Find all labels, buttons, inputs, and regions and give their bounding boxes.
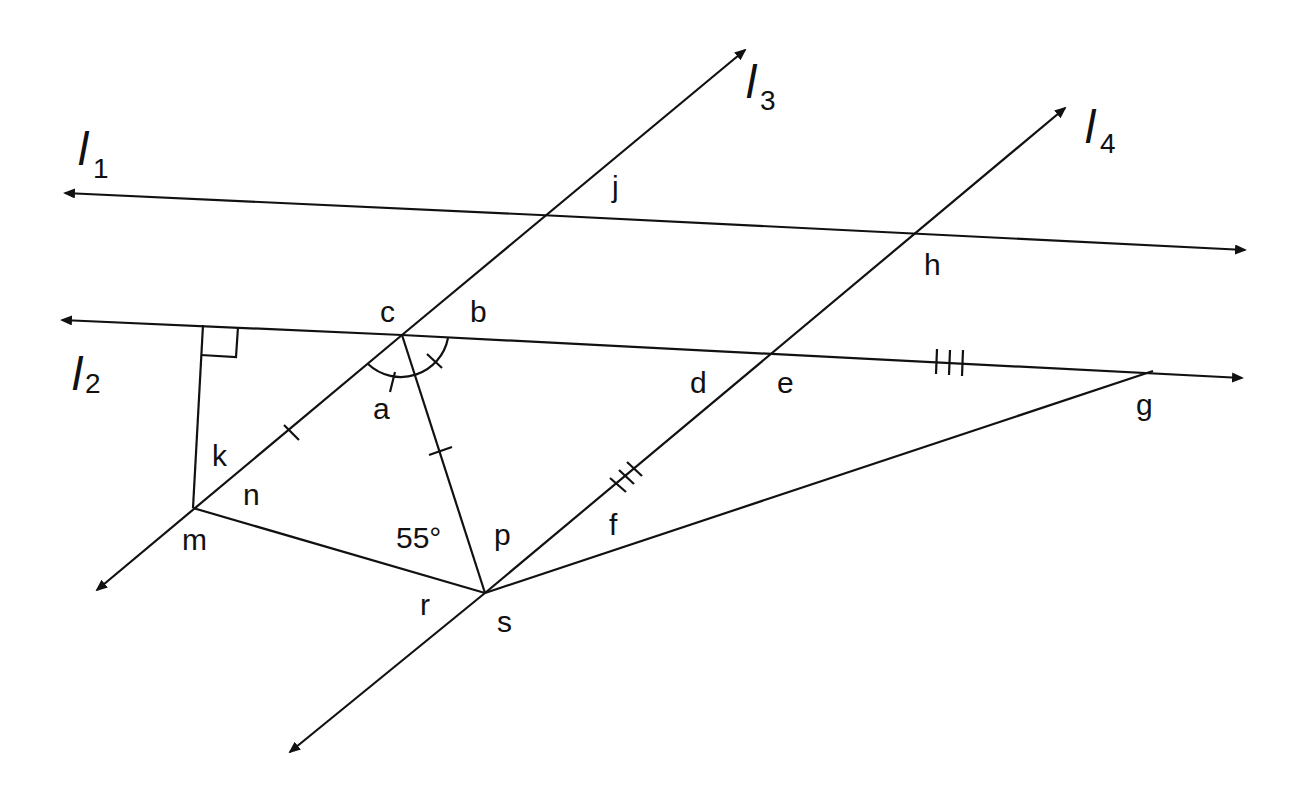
angle-label-g: g [1136, 388, 1153, 421]
angle-label-h: h [924, 248, 941, 281]
line-l1 [540, 215, 1245, 250]
line-label-l3: l 3 [746, 56, 776, 116]
line-label-l4: l 4 [1085, 101, 1116, 159]
line-l2-left [62, 320, 402, 335]
triple-tick-l2-1 [936, 349, 937, 374]
line-label-l1: l 1 [78, 123, 109, 184]
svg-text:2: 2 [85, 368, 101, 399]
triple-tick-l4-2 [619, 470, 634, 484]
angle-label-j: j [611, 170, 619, 203]
segment-s-g [485, 371, 1153, 593]
segment-c-s [402, 335, 485, 593]
angle-label-n: n [243, 478, 260, 511]
svg-text:3: 3 [760, 85, 776, 116]
triple-tick-l4-1 [610, 478, 626, 492]
svg-text:l: l [746, 56, 758, 108]
angle-label-e: e [777, 366, 794, 399]
svg-text:4: 4 [1100, 128, 1116, 159]
line-l3-lower [97, 335, 402, 590]
svg-text:1: 1 [93, 153, 109, 184]
triple-tick-l2-3 [962, 350, 963, 376]
angle-label-k: k [212, 439, 228, 472]
triple-tick-l2-2 [949, 350, 950, 375]
line-label-l2: l 2 [72, 348, 101, 400]
line-l3 [402, 50, 745, 335]
angle-label-c: c [380, 295, 395, 328]
angle-label-r: r [420, 588, 430, 621]
right-angle-marker [201, 327, 238, 357]
angle-label-m: m [182, 523, 207, 556]
geometry-diagram: l 1 l 2 l 3 l 4 j h c b a d e g k n m f … [0, 0, 1310, 806]
segment-m-perp [193, 325, 203, 508]
line-l4 [485, 108, 1065, 593]
line-l2 [402, 335, 1242, 378]
svg-text:l: l [72, 348, 84, 400]
angle-label-a: a [373, 392, 390, 425]
angle-label-p: p [494, 518, 511, 551]
angle-label-s: s [497, 605, 512, 638]
angle-label-d: d [690, 366, 707, 399]
angle-label-b: b [470, 295, 487, 328]
angle-arc-c [368, 338, 448, 377]
angle-label-f: f [609, 508, 618, 541]
line-l4-lower [290, 593, 485, 752]
given-angle-55: 55° [396, 521, 441, 554]
svg-text:l: l [1085, 101, 1097, 153]
svg-text:l: l [78, 123, 90, 175]
line-l1-left [65, 193, 540, 215]
